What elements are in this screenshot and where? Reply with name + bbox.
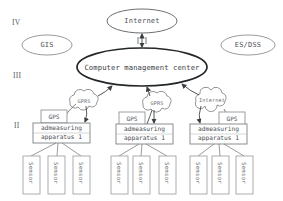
ellipse-gis (22, 35, 72, 55)
sensor-label-2-1: Sensor (116, 162, 122, 184)
box-apparatus-1 (33, 123, 90, 143)
network-architecture-diagram: IV III II Internet GIS ES/DSS Computer m… (0, 0, 283, 201)
sensor-label-1-2: Sensor (53, 162, 59, 184)
connector-cloud3-center (182, 84, 199, 95)
cloud-gprs-2 (143, 91, 171, 112)
level-label-iv: IV (12, 18, 20, 27)
cloud-internet (195, 87, 226, 111)
sensor-label-2-2: Sensor (138, 162, 144, 184)
cloud-gprs-1 (70, 89, 98, 110)
connectors-apparatus1-sensors (31, 143, 81, 156)
sensor-label-3-2: Sensor (217, 162, 223, 184)
connectors-apparatus3-sensors (198, 144, 244, 156)
ellipse-internet-top (107, 9, 177, 33)
connector-cloud1-center (98, 86, 112, 96)
ellipse-computer-management-center (77, 48, 207, 86)
connector-apparatus2-cloud2 (147, 110, 154, 124)
box-gps-3 (219, 112, 245, 125)
box-apparatus-3 (190, 124, 247, 144)
sensor-label-1-1: Sensor (28, 162, 34, 184)
connectors-apparatus2-sensors (119, 144, 167, 156)
level-label-iii: III (13, 71, 21, 80)
sensor-label-3-1: Sensor (195, 162, 201, 184)
ellipse-es-dss (221, 35, 275, 55)
box-gps-2 (119, 112, 145, 125)
sensor-label-1-3: Sensor (78, 162, 84, 184)
level-label-ii: II (14, 121, 19, 130)
box-gps-1 (41, 110, 67, 123)
box-apparatus-2 (116, 124, 173, 144)
sensor-label-3-3: Sensor (241, 162, 247, 184)
connector-internet-center (138, 34, 146, 47)
sensor-label-2-3: Sensor (164, 162, 170, 184)
